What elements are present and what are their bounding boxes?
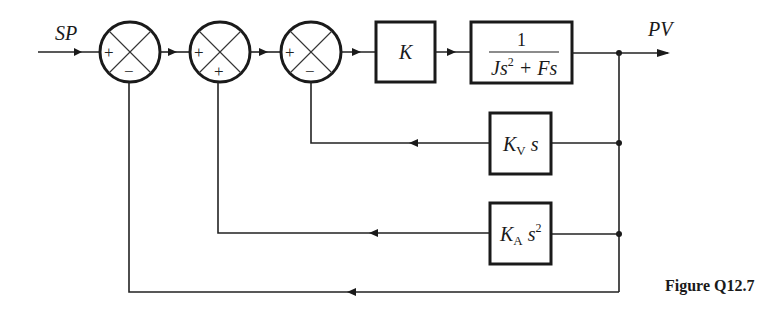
acceleration-feedback-path: KA s2 xyxy=(218,82,622,264)
sum3-sign-left: + xyxy=(285,43,295,62)
pv-output: PV xyxy=(572,18,675,57)
figure-caption: Figure Q12.7 xyxy=(665,277,754,295)
arrow-right-icon xyxy=(657,49,670,57)
gain-label: K xyxy=(398,41,414,63)
plant-numerator: 1 xyxy=(517,30,526,50)
sum2-sign-left: + xyxy=(194,43,204,62)
gain-block-k: K xyxy=(376,22,435,82)
velocity-feedback-path: KV s xyxy=(311,82,622,174)
sp-label: SP xyxy=(55,22,77,44)
sum1-sign-left: + xyxy=(104,43,114,62)
plant-block: 1 Js2 + Fs xyxy=(471,22,572,83)
arrow-left-icon xyxy=(409,139,418,147)
summing-junction-1: + − xyxy=(100,22,160,82)
sum3-sign-bottom: − xyxy=(305,62,315,81)
sp-input: SP xyxy=(38,22,100,56)
sum2-sign-bottom: + xyxy=(214,62,224,81)
block-diagram: SP + − + + + − K xyxy=(0,0,759,311)
summing-junction-2: + + xyxy=(190,22,250,82)
sum1-sign-bottom: − xyxy=(124,62,134,81)
summing-junction-3: + − xyxy=(281,22,341,82)
arrow-right-icon xyxy=(168,48,177,56)
arrow-left-icon xyxy=(369,229,378,237)
arrow-left-icon xyxy=(347,288,356,296)
arrow-right-icon xyxy=(259,48,268,56)
arrow-right-icon xyxy=(352,48,361,56)
plant-denominator: Js2 + Fs xyxy=(491,55,557,79)
arrow-right-icon xyxy=(74,48,82,56)
pv-label: PV xyxy=(647,18,675,40)
arrow-right-icon xyxy=(447,48,456,56)
